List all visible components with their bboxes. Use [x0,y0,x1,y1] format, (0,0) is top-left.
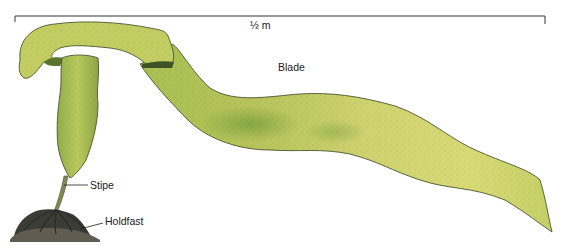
blade-label: Blade [278,62,305,73]
blade [140,44,552,232]
kelp-illustration [0,0,561,251]
stipe [54,176,68,212]
holdfast-label: Holdfast [105,216,144,227]
scale-bar-label: ½ m [250,20,270,31]
stipe-label: Stipe [90,180,114,191]
kelp-diagram: ½ m Blade Stipe Holdfast [0,0,561,251]
stipe-blade [57,55,98,178]
holdfast [10,209,100,242]
